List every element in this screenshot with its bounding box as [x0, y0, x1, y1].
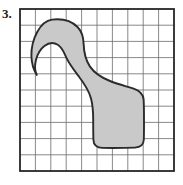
- figure-container: 3.: [0, 0, 183, 185]
- grid-area-figure: [0, 0, 183, 185]
